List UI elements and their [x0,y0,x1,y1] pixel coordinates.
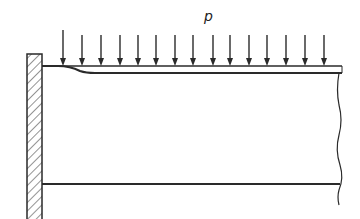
arrowhead-icon [153,58,159,66]
arrowhead-icon [60,58,66,66]
load-label: p [204,8,213,24]
arrowhead-icon [190,58,196,66]
distributed-load-arrows [60,30,327,66]
arrowhead-icon [135,58,141,66]
cantilever-diagram [0,0,360,219]
arrowhead-icon [283,58,289,66]
arrowhead-icon [227,58,233,66]
arrowhead-icon [210,58,216,66]
arrowhead-icon [98,58,104,66]
arrowhead-icon [79,58,85,66]
arrowhead-icon [117,58,123,66]
arrowhead-icon [172,58,178,66]
arrowhead-icon [302,58,308,66]
arrowhead-icon [321,58,327,66]
arrowhead-icon [264,58,270,66]
arrowhead-icon [246,58,252,66]
beam-top-edge [42,66,342,73]
break-line [337,73,342,205]
fixed-support-wall [27,54,42,219]
